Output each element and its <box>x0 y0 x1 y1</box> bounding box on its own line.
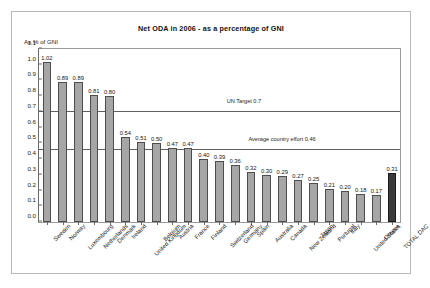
bar[interactable] <box>372 195 381 222</box>
bar-slot: 0.25 <box>309 49 318 222</box>
bar-value-label: 0.40 <box>198 152 209 158</box>
bar-slot: 0.31 <box>388 49 397 222</box>
bar-value-label: 0.89 <box>73 75 84 81</box>
x-tick-label: France <box>193 223 210 240</box>
bar-value-label: 1.02 <box>41 55 52 61</box>
bar[interactable] <box>43 62 52 222</box>
y-tick-label: 0.2 <box>27 180 39 187</box>
bar-value-label: 0.54 <box>120 130 131 136</box>
bar-value-label: 0.32 <box>245 165 256 171</box>
y-tick-label: 0.8 <box>27 86 39 93</box>
bar-value-label: 0.17 <box>371 188 382 194</box>
bar-slot: 0.81 <box>90 49 99 222</box>
bar-value-label: 0.21 <box>324 182 335 188</box>
bar-value-label: 0.27 <box>292 173 303 179</box>
bar-value-label: 0.51 <box>135 135 146 141</box>
bar[interactable] <box>152 143 161 222</box>
plot-area: 1.11.00.90.80.70.60.50.40.30.20.10.0 UN … <box>38 48 401 223</box>
bar-slot: 1.02 <box>43 49 52 222</box>
bar[interactable] <box>215 161 224 222</box>
bar[interactable] <box>168 148 177 222</box>
bar[interactable] <box>325 189 334 222</box>
bar-slot: 0.50 <box>152 49 161 222</box>
bar[interactable] <box>278 176 287 222</box>
bar[interactable] <box>356 194 365 222</box>
bar-slot: 0.40 <box>199 49 208 222</box>
y-tick-label: 0.4 <box>27 149 39 156</box>
x-tick-label: Sweden <box>52 223 71 242</box>
bar[interactable] <box>121 137 130 222</box>
bar-slot: 0.20 <box>341 49 350 222</box>
bar-slot: 0.51 <box>137 49 146 222</box>
bar-slot: 0.89 <box>58 49 67 222</box>
bar-value-label: 0.89 <box>57 75 68 81</box>
bar-slot: 0.17 <box>372 49 381 222</box>
bar-value-label: 0.31 <box>386 166 397 172</box>
bar-value-label: 0.25 <box>308 176 319 182</box>
bar-value-label: 0.30 <box>261 168 272 174</box>
bar-slot: 0.18 <box>356 49 365 222</box>
y-tick-label: 0.6 <box>27 117 39 124</box>
bar-value-label: 0.50 <box>151 136 162 142</box>
y-tick-label: 1.1 <box>27 39 39 46</box>
bar[interactable] <box>137 142 146 222</box>
y-tick-label: 0.5 <box>27 133 39 140</box>
y-tick-label: 0.7 <box>27 101 39 108</box>
bar[interactable] <box>105 96 114 222</box>
bar-slot: 0.47 <box>184 49 193 222</box>
bar[interactable] <box>58 82 67 222</box>
bar-value-label: 0.47 <box>167 141 178 147</box>
y-tick-label: 0.9 <box>27 70 39 77</box>
bar[interactable] <box>294 180 303 222</box>
bar-slot: 0.39 <box>215 49 224 222</box>
bar[interactable] <box>74 82 83 222</box>
bar-slot: 0.21 <box>325 49 334 222</box>
y-tick-label: 1.0 <box>27 54 39 61</box>
bar-value-label: 0.29 <box>277 169 288 175</box>
bar-slot: 0.29 <box>278 49 287 222</box>
bar-slot: 0.27 <box>294 49 303 222</box>
y-tick-label: 0.0 <box>27 212 39 219</box>
bar-slot: 0.36 <box>231 49 240 222</box>
x-tick-label: TOTAL DAC <box>403 223 430 250</box>
x-tick-label: Finland <box>209 223 227 241</box>
bar[interactable] <box>231 165 240 222</box>
bar-value-label: 0.36 <box>230 158 241 164</box>
bar[interactable] <box>262 175 271 222</box>
bar[interactable] <box>309 183 318 222</box>
bar[interactable] <box>199 159 208 222</box>
bar-value-label: 0.80 <box>104 89 115 95</box>
bar-slot: 0.54 <box>121 49 130 222</box>
y-tick-label: 0.1 <box>27 196 39 203</box>
bar[interactable] <box>184 148 193 222</box>
bar-series: 1.020.890.890.810.800.540.510.500.470.47… <box>39 49 400 222</box>
bar[interactable] <box>247 172 256 222</box>
chart-frame: Net ODA in 2006 - as a percentage of GNI… <box>11 11 411 274</box>
bar[interactable] <box>90 95 99 222</box>
bar-value-label: 0.20 <box>339 184 350 190</box>
bar-slot: 0.80 <box>105 49 114 222</box>
bar-value-label: 0.39 <box>214 154 225 160</box>
bar-slot: 0.32 <box>247 49 256 222</box>
bar[interactable] <box>388 173 397 222</box>
bar-slot: 0.47 <box>168 49 177 222</box>
chart-title: Net ODA in 2006 - as a percentage of GNI <box>12 24 410 33</box>
bar-value-label: 0.18 <box>355 187 366 193</box>
x-axis-labels: SwedenNorwayLuxembourgNetherlandsDenmark… <box>38 223 401 283</box>
y-tick-label: 0.3 <box>27 164 39 171</box>
bar-slot: 0.89 <box>74 49 83 222</box>
bar-slot: 0.30 <box>262 49 271 222</box>
bar[interactable] <box>341 191 350 222</box>
bar-value-label: 0.47 <box>182 141 193 147</box>
bar-value-label: 0.81 <box>88 88 99 94</box>
x-tick-label: Greece <box>383 223 401 241</box>
